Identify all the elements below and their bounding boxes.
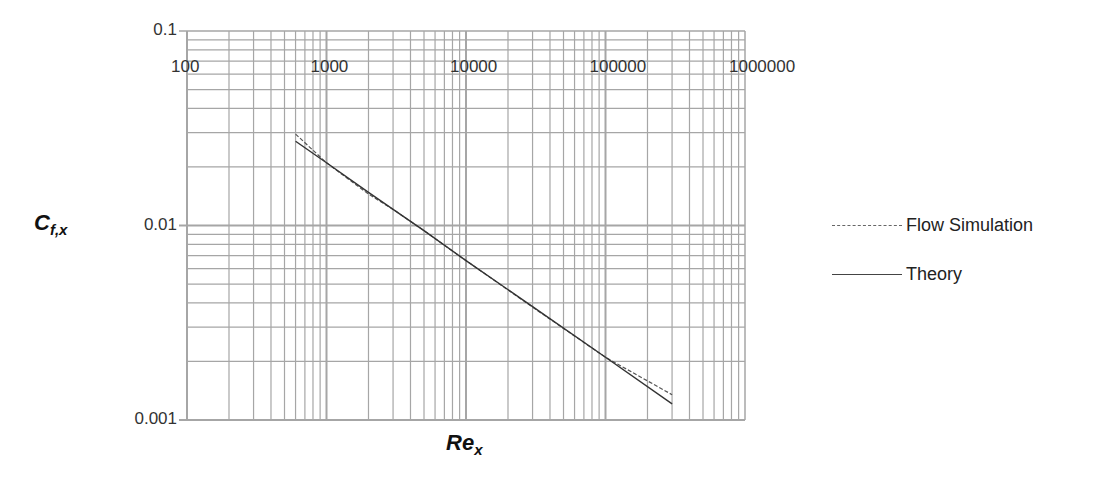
x-tick-label: 10000: [450, 57, 497, 77]
legend-item-flow-simulation: Flow Simulation: [832, 215, 1033, 236]
x-tick-label: 1000: [311, 57, 349, 77]
legend-dashed-line-icon: [832, 225, 902, 226]
y-tick-label: 0.01: [144, 215, 177, 235]
x-tick-label: 1000000: [729, 57, 795, 77]
y-axis-title: Cf,x: [34, 210, 67, 238]
x-axis-title-sub: x: [474, 441, 482, 458]
x-axis-title: Rex: [446, 430, 482, 458]
legend-label: Theory: [906, 264, 962, 285]
theory-line: [296, 141, 672, 404]
legend-label: Flow Simulation: [906, 215, 1033, 236]
x-axis-title-main: Re: [446, 430, 474, 455]
flow-simulation-line: [296, 134, 672, 395]
x-tick-label: 100: [171, 57, 199, 77]
x-tick-label: 100000: [590, 57, 647, 77]
grid-lines: [179, 31, 745, 420]
y-tick-label: 0.1: [153, 20, 177, 40]
legend-item-theory: Theory: [832, 264, 962, 285]
y-axis-title-main: C: [34, 210, 50, 235]
y-axis-title-sub: f,x: [50, 221, 68, 238]
legend-solid-line-icon: [832, 274, 902, 275]
y-tick-label: 0.001: [134, 409, 177, 429]
